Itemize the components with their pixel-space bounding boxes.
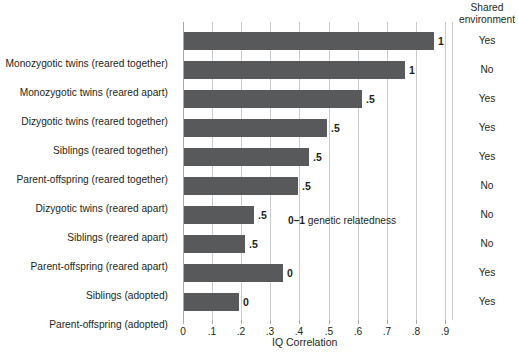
genetic-relatedness-annotation: 0–1 genetic relatedness xyxy=(288,215,396,226)
bar xyxy=(184,177,298,195)
shared-environment-value: Yes xyxy=(456,293,518,311)
category-label: Parent-offspring (reared apart) xyxy=(0,261,168,273)
shared-environment-value: No xyxy=(456,206,518,224)
bar-value-label: .5 xyxy=(366,90,375,108)
x-tick-label: .2 xyxy=(231,326,251,337)
bar xyxy=(184,235,245,253)
x-tick-label: .9 xyxy=(435,326,455,337)
category-label: Monozygotic twins (reared together) xyxy=(0,58,168,70)
bar-value-label: 1 xyxy=(409,61,415,79)
bar xyxy=(184,90,362,108)
x-tick xyxy=(183,320,184,324)
bar xyxy=(184,293,239,311)
x-tick-label: .8 xyxy=(406,326,426,337)
bar xyxy=(184,32,434,50)
shared-environment-value: No xyxy=(456,61,518,79)
bar xyxy=(184,61,405,79)
category-label: Siblings (reared together) xyxy=(0,145,168,157)
x-tick-label: .1 xyxy=(202,326,222,337)
category-label: Parent-offspring (reared together) xyxy=(0,174,168,186)
x-tick xyxy=(358,320,359,324)
x-tick xyxy=(387,320,388,324)
gridline xyxy=(416,22,417,320)
category-label: Siblings (adopted) xyxy=(0,290,168,302)
x-axis-title: IQ Correlation xyxy=(272,336,337,348)
shared-environment-value: Yes xyxy=(456,264,518,282)
bar xyxy=(184,119,327,137)
bar-value-label: .5 xyxy=(258,206,267,224)
x-tick xyxy=(445,320,446,324)
x-tick xyxy=(416,320,417,324)
bar xyxy=(184,264,283,282)
x-tick-label: 0 xyxy=(173,326,193,337)
gridline xyxy=(445,22,446,320)
x-tick xyxy=(212,320,213,324)
x-tick-label: .7 xyxy=(377,326,397,337)
plot-area: 1 1 .5 .5 .5 .5 .5 .5 0 0 0–1 genetic re… xyxy=(183,22,445,320)
x-tick-label: .6 xyxy=(348,326,368,337)
x-tick xyxy=(270,320,271,324)
x-tick xyxy=(241,320,242,324)
x-tick xyxy=(329,320,330,324)
shared-environment-header-line2: environment xyxy=(456,14,518,26)
bar-value-label: 0 xyxy=(287,264,293,282)
x-tick xyxy=(299,320,300,324)
bar-value-label: .5 xyxy=(313,148,322,166)
bar xyxy=(184,148,309,166)
category-label: Dizygotic twins (reared together) xyxy=(0,116,168,128)
bar-value-label: .5 xyxy=(249,235,258,253)
right-column-separator xyxy=(452,22,453,320)
shared-environment-value: Yes xyxy=(456,32,518,50)
bar-value-label: 1 xyxy=(438,32,444,50)
shared-environment-value: No xyxy=(456,235,518,253)
annotation-bold-prefix: 0–1 xyxy=(288,215,305,226)
category-label: Parent-offspring (adopted) xyxy=(0,319,168,331)
category-label: Monozygotic twins (reared apart) xyxy=(0,87,168,99)
bar-value-label: 0 xyxy=(243,293,249,311)
shared-environment-value: No xyxy=(456,177,518,195)
shared-environment-header-line1: Shared xyxy=(456,2,518,14)
category-label: Siblings (reared apart) xyxy=(0,232,168,244)
shared-environment-value: Yes xyxy=(456,119,518,137)
shared-environment-header: Shared environment xyxy=(456,2,518,26)
category-label: Dizygotic twins (reared apart) xyxy=(0,203,168,215)
shared-environment-value: Yes xyxy=(456,90,518,108)
bar-value-label: .5 xyxy=(302,177,311,195)
bar-value-label: .5 xyxy=(331,119,340,137)
annotation-text: genetic relatedness xyxy=(305,215,396,226)
shared-environment-value: Yes xyxy=(456,148,518,166)
iq-correlation-chart: Monozygotic twins (reared together) Mono… xyxy=(0,0,518,360)
bar xyxy=(184,206,254,224)
